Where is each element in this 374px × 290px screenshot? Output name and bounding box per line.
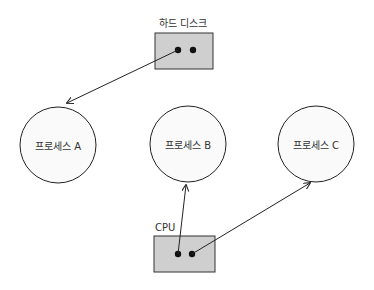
process-b-label: 프로세스 B [165,137,211,152]
process-c-label: 프로세스 C [293,137,339,152]
cpu-box [154,236,215,272]
cpu-label: CPU [155,222,175,233]
process-a-label: 프로세스 A [35,138,81,153]
hard-disk-box [155,33,213,69]
hard-disk-dot-2 [190,47,196,53]
arrow-hdd-to-process-a [67,50,178,103]
hard-disk-label: 하드 디스크 [159,15,207,30]
arrow-cpu-to-process-c [192,183,310,254]
